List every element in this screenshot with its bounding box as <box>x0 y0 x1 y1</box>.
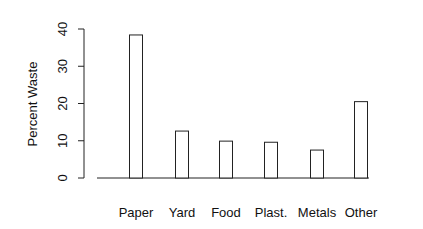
x-tick-label: Plast. <box>255 205 288 220</box>
bar-plast <box>265 142 278 178</box>
bar-food <box>220 141 233 178</box>
y-tick-label: 0 <box>55 174 70 181</box>
y-tick-label: 30 <box>55 59 70 73</box>
x-tick-label: Yard <box>169 205 196 220</box>
bars <box>130 35 368 178</box>
y-tick-label: 40 <box>55 22 70 36</box>
y-axis: 010203040 <box>55 22 84 182</box>
x-tick-label: Other <box>345 205 378 220</box>
x-tick-label: Paper <box>119 205 154 220</box>
bar-yard <box>176 131 189 178</box>
bar-paper <box>130 35 143 178</box>
y-tick-label: 20 <box>55 96 70 110</box>
bar-chart: Percent Waste 010203040 PaperYardFoodPla… <box>0 0 423 229</box>
bar-other <box>355 102 368 178</box>
x-tick-label: Food <box>211 205 241 220</box>
y-axis-label: Percent Waste <box>25 62 40 147</box>
x-axis-labels: PaperYardFoodPlast.MetalsOther <box>119 205 378 220</box>
bar-metals <box>311 150 324 178</box>
y-tick-label: 10 <box>55 134 70 148</box>
x-tick-label: Metals <box>298 205 337 220</box>
